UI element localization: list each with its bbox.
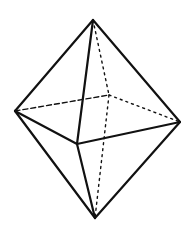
edge-left-front bbox=[15, 111, 77, 144]
edge-top-right bbox=[93, 20, 180, 122]
edge-top-back-hidden bbox=[93, 20, 109, 95]
edge-top-left bbox=[15, 20, 93, 111]
edge-top-front bbox=[77, 20, 93, 144]
edge-left-back-hidden bbox=[15, 95, 109, 111]
octahedron-edges bbox=[15, 20, 180, 218]
octahedron-diagram bbox=[0, 0, 194, 231]
edge-back-bottom-hidden bbox=[95, 95, 109, 218]
